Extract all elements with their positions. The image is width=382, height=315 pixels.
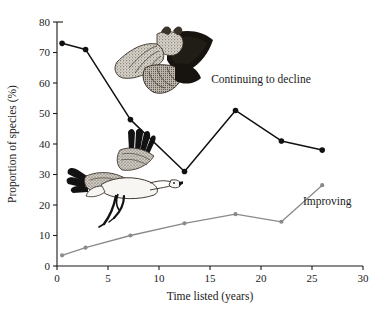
data-point bbox=[83, 246, 87, 250]
data-point bbox=[279, 138, 285, 144]
x-tick-label: 0 bbox=[54, 272, 60, 284]
chart-figure: 01020304050607080051015202530 Time liste… bbox=[0, 0, 382, 315]
x-tick-label: 5 bbox=[105, 272, 111, 284]
data-point bbox=[128, 233, 132, 237]
y-axis-title: Proportion of species (%) bbox=[6, 85, 19, 203]
data-point bbox=[182, 221, 186, 225]
y-tick-label: 10 bbox=[39, 229, 51, 241]
y-tick-label: 60 bbox=[39, 77, 51, 89]
data-point bbox=[60, 253, 64, 257]
data-point bbox=[83, 47, 89, 53]
y-tick-label: 30 bbox=[39, 168, 51, 180]
data-point bbox=[320, 183, 324, 187]
y-tick-label: 20 bbox=[39, 199, 51, 211]
series-line-continuing-to-decline bbox=[62, 43, 322, 171]
y-tick-label: 50 bbox=[39, 107, 51, 119]
data-point bbox=[182, 169, 188, 175]
x-tick-label: 20 bbox=[256, 272, 268, 284]
y-tick-label: 80 bbox=[39, 16, 51, 28]
x-tick-label: 10 bbox=[154, 272, 166, 284]
data-point bbox=[128, 117, 134, 123]
axis-spines bbox=[57, 22, 363, 266]
data-point bbox=[279, 220, 283, 224]
y-tick-label: 0 bbox=[45, 260, 51, 272]
y-tick-label: 70 bbox=[39, 46, 51, 58]
data-point bbox=[233, 108, 239, 114]
data-point bbox=[319, 147, 325, 153]
chart-plot: 01020304050607080051015202530 Time liste… bbox=[0, 0, 382, 315]
x-tick-label: 25 bbox=[307, 272, 319, 284]
series-label-continuing-to-decline: Continuing to decline bbox=[211, 73, 311, 86]
y-tick-label: 40 bbox=[39, 138, 51, 150]
x-tick-label: 15 bbox=[205, 272, 217, 284]
x-axis-title: Time listed (years) bbox=[167, 290, 254, 303]
data-point bbox=[59, 41, 65, 47]
data-point bbox=[233, 212, 237, 216]
chart-text-layer: Time listed (years)Proportion of species… bbox=[6, 73, 352, 303]
series-label-improving: Improving bbox=[303, 195, 352, 208]
x-tick-label: 30 bbox=[358, 272, 370, 284]
series-line-improving bbox=[62, 185, 322, 255]
